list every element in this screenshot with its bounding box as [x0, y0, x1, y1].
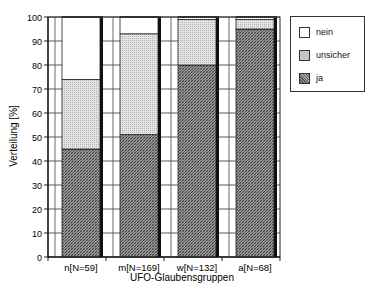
legend: nein unsicher ja [290, 16, 365, 92]
x-axis-label: UFO-Glaubensgruppen [130, 272, 234, 283]
y-tick-label: 60 [32, 109, 42, 119]
y-tick-label: 30 [32, 181, 42, 191]
x-tick-label: n[N=59] [64, 262, 98, 273]
bar-segment-ja [62, 149, 100, 257]
y-tick-label: 50 [32, 133, 42, 143]
legend-label: nein [316, 26, 333, 38]
bar-group [120, 16, 161, 257]
bar-shadow [274, 17, 277, 257]
unsicher-swatch-icon [299, 50, 310, 61]
legend-label: unsicher [316, 49, 350, 61]
y-tick-label: 90 [32, 37, 42, 47]
bar-segment-unsicher [120, 34, 158, 135]
bar-segment-ja [236, 29, 274, 257]
y-axis-label: Verteilung [%] [8, 105, 19, 167]
x-tick-label: a[N=68] [238, 262, 272, 273]
y-tick-label: 70 [32, 85, 42, 95]
bar-segment-nein [62, 17, 100, 79]
bar-segment-nein [120, 17, 158, 34]
bar-shadow [158, 17, 161, 257]
bar-group [62, 16, 103, 257]
y-tick-label: 80 [32, 61, 42, 71]
ja-swatch-icon [299, 73, 310, 84]
y-tick-label: 10 [32, 229, 42, 239]
y-tick-label: 20 [32, 205, 42, 215]
y-tick-label: 100 [27, 13, 42, 23]
bar-segment-unsicher [178, 19, 216, 65]
legend-label: ja [316, 72, 323, 84]
nein-swatch-icon [299, 27, 310, 38]
bar-segment-unsicher [236, 19, 274, 29]
bar-group [178, 16, 219, 257]
y-tick-label: 40 [32, 157, 42, 167]
bar-segment-ja [178, 65, 216, 257]
bar-shadow [216, 17, 219, 257]
bar-shadow [100, 17, 103, 257]
bar-group [236, 16, 277, 257]
y-tick-label: 0 [37, 253, 42, 263]
bar-segment-ja [120, 135, 158, 257]
bar-segment-unsicher [62, 79, 100, 149]
